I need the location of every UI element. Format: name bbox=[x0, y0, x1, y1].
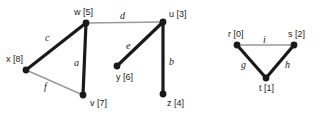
vertex-label-s: s [2] bbox=[288, 30, 305, 39]
graph-edge-a[interactable] bbox=[83, 23, 86, 95]
graph-canvas bbox=[0, 0, 321, 117]
edge-label-g: g bbox=[241, 60, 246, 70]
graph-vertex-r[interactable] bbox=[234, 42, 241, 49]
vertex-label-y: y [6] bbox=[116, 73, 133, 82]
graph-vertex-s[interactable] bbox=[291, 42, 298, 49]
edge-label-b: b bbox=[169, 57, 174, 67]
edge-label-h: h bbox=[285, 60, 290, 70]
graph-vertex-w[interactable] bbox=[83, 20, 90, 27]
edge-label-d: d bbox=[120, 11, 125, 21]
vertex-label-v: v [7] bbox=[90, 99, 107, 108]
edge-label-e: e bbox=[126, 41, 130, 51]
graph-edge-f[interactable] bbox=[26, 70, 83, 95]
edge-label-i: i bbox=[263, 35, 266, 45]
vertex-label-u: u [3] bbox=[169, 10, 187, 19]
edge-label-f: f bbox=[44, 82, 47, 92]
graph-figure: cafdebw [5]x [8]v [7]u [3]y [6]z [4]ighr… bbox=[0, 0, 321, 117]
graph-vertex-x[interactable] bbox=[23, 67, 30, 74]
graph-edge-d[interactable] bbox=[86, 22, 163, 23]
vertex-label-t: t [1] bbox=[259, 84, 274, 93]
graph-vertex-v[interactable] bbox=[80, 92, 87, 99]
vertex-label-r: r [0] bbox=[228, 30, 244, 39]
graph-vertex-y[interactable] bbox=[114, 63, 121, 70]
graph-vertex-z[interactable] bbox=[160, 91, 167, 98]
graph-vertex-t[interactable] bbox=[263, 75, 270, 82]
edge-label-a: a bbox=[74, 58, 79, 68]
vertex-label-x: x [8] bbox=[6, 55, 23, 64]
graph-edge-e[interactable] bbox=[117, 22, 163, 66]
vertex-label-w: w [5] bbox=[74, 8, 93, 17]
vertex-label-z: z [4] bbox=[167, 99, 184, 108]
graph-vertex-u[interactable] bbox=[160, 19, 167, 26]
edge-label-c: c bbox=[45, 33, 49, 43]
